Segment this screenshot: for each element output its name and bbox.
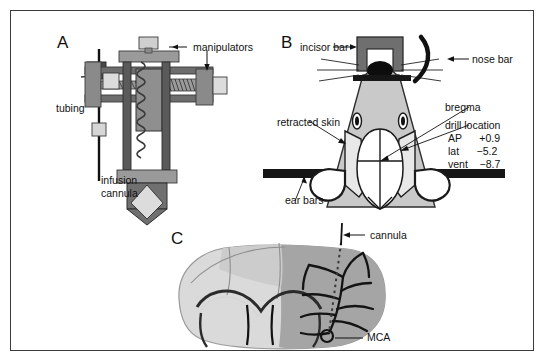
pupil-left	[355, 117, 359, 126]
vertical-post-right	[162, 62, 170, 170]
cannula-shaft	[341, 223, 342, 245]
label-infusion-cannula-line2: cannula	[101, 187, 138, 199]
figure-root: A	[0, 0, 545, 364]
whiskers-left	[317, 59, 359, 81]
ear-right	[415, 169, 450, 201]
central-carriage	[136, 69, 162, 131]
arrowhead-nose-bar	[447, 56, 454, 62]
label-nose-bar: nose bar	[472, 53, 513, 65]
coord-ap: AP +0.9	[448, 132, 500, 145]
label-drill-location: drill location	[445, 119, 500, 131]
coord-lat: lat −5.2	[448, 145, 497, 158]
vertical-post-left	[123, 62, 131, 170]
panel-a-drawing	[41, 29, 291, 229]
label-tubing: tubing	[56, 102, 85, 114]
coord-vent: vent −8.7	[448, 158, 500, 171]
label-infusion-cannula-line1: infusion	[101, 174, 137, 186]
label-bregma: bregma	[445, 101, 481, 113]
label-cannula: cannula	[370, 229, 407, 241]
horizontal-adjust-knob	[213, 77, 227, 94]
vertical-knob-neck	[145, 48, 152, 53]
rod-clamp	[92, 123, 106, 136]
figure-border: A	[10, 10, 534, 351]
label-ear-bars: ear bars	[285, 194, 324, 206]
arrowhead-manipulators-top	[172, 44, 178, 49]
arrowhead-incisor-bar	[350, 44, 357, 50]
pupil-right	[401, 117, 405, 126]
horizontal-manipulator-left-block	[85, 62, 101, 107]
vertical-adjust-knob	[139, 37, 158, 49]
label-manipulators: manipulators	[193, 41, 253, 53]
horizontal-manipulator-right-block	[196, 69, 213, 105]
horizontal-slider-block	[103, 73, 119, 89]
nose-bar	[415, 37, 428, 81]
label-mca: MCA	[367, 331, 390, 343]
incisor-bar	[353, 75, 411, 81]
panel-c-drawing	[161, 221, 441, 364]
arrowhead-cannula	[343, 232, 350, 237]
label-incisor-bar: incisor bar	[300, 41, 348, 53]
label-retracted-skin: retracted skin	[277, 116, 340, 128]
